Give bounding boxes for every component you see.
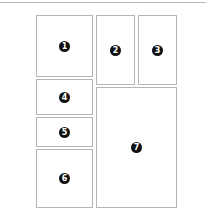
number-badge: 6 (59, 173, 70, 184)
number-badge: 3 (152, 45, 163, 56)
panel-1: 1 (36, 15, 93, 77)
panel-7: 7 (96, 87, 177, 208)
panel-5: 5 (36, 117, 93, 147)
panel-6: 6 (36, 149, 93, 208)
number-badge: 5 (59, 127, 70, 138)
panel-4: 4 (36, 79, 93, 115)
panel-3: 3 (138, 15, 177, 85)
number-badge: 1 (59, 41, 70, 52)
top-divider (0, 2, 206, 3)
number-badge: 7 (131, 142, 142, 153)
number-badge: 4 (59, 92, 70, 103)
panel-2: 2 (96, 15, 135, 85)
number-badge: 2 (110, 45, 121, 56)
